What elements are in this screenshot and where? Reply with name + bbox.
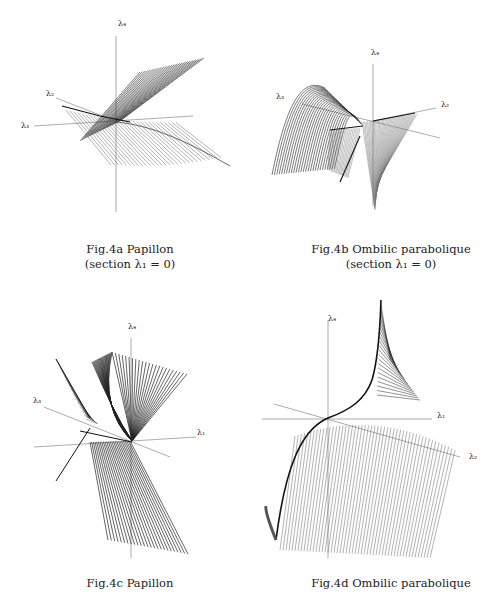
axes	[34, 338, 196, 558]
caption-title: Fig.4a Papillon	[60, 242, 200, 257]
axes	[262, 320, 460, 558]
axis-label-lambda4: λ₄	[328, 314, 336, 323]
axis-label-lambda2: λ₂	[469, 452, 477, 461]
caption-title: Fig.4b Ombilic parabolique	[296, 242, 486, 257]
axis-label-lambda1: λ₁	[197, 428, 205, 437]
upper-sheet	[80, 58, 204, 141]
lower-sheet	[90, 441, 188, 554]
caption-figure-4a: Fig.4a Papillon (section λ₁ = 0)	[60, 242, 200, 272]
figure-4a: λ₄ λ₂ λ₃	[0, 0, 250, 230]
axis-label-lambda1: λ₁	[437, 411, 445, 420]
axis-label-lambda3: λ₃	[33, 396, 41, 405]
axis-label-lambda2: λ₂	[46, 89, 54, 98]
figure-4c-surface-plot	[0, 300, 250, 560]
figure-4c: λ₄ λ₃ λ₁	[0, 300, 250, 560]
axis-label-lambda4: λ₄	[371, 48, 379, 57]
axis-label-lambda4: λ₄	[118, 19, 126, 28]
figure-4d-surface-plot	[240, 300, 492, 560]
spike-sheet	[377, 305, 420, 400]
caption-figure-4d: Fig.4d Ombilic parabolique	[296, 576, 486, 591]
figure-4a-surface-plot	[0, 0, 250, 230]
axis-label-lambda3: λ₃	[276, 92, 284, 101]
caption-subtitle: (section λ₁ = 0)	[296, 257, 486, 272]
axis-label-lambda4: λ₄	[128, 322, 136, 331]
figure-4b: λ₄ λ₃ λ₂	[250, 0, 492, 230]
caption-figure-4b: Fig.4b Ombilic parabolique (section λ₁ =…	[296, 242, 486, 272]
figure-4d: λ₄ λ₁ λ₂	[240, 300, 492, 560]
lower-sheet	[66, 110, 221, 166]
caption-figure-4c: Fig.4c Papillon	[60, 576, 200, 591]
axis-label-lambda3: λ₃	[21, 121, 29, 130]
figure-4b-surface-plot	[250, 0, 492, 230]
axis-label-lambda2: λ₂	[441, 100, 449, 109]
caption-title: Fig.4c Papillon	[60, 576, 200, 591]
upper-sheet	[92, 352, 187, 441]
caption-subtitle: (section λ₁ = 0)	[60, 257, 200, 272]
caption-title: Fig.4d Ombilic parabolique	[296, 576, 486, 591]
dome-sheet	[280, 425, 455, 558]
